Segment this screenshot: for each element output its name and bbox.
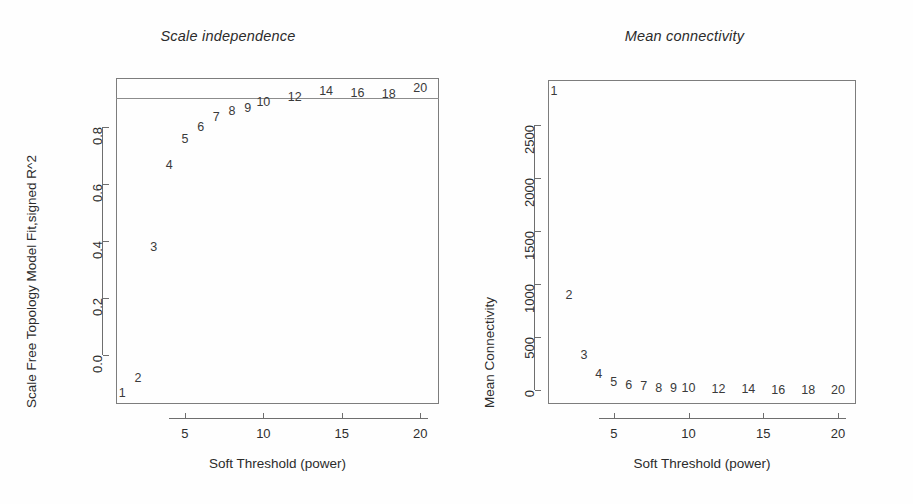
data-point-label: 7 <box>213 110 220 123</box>
data-point-label: 10 <box>256 96 270 109</box>
x-tick-mark <box>614 413 615 419</box>
y-tick-label: 1000 <box>522 284 537 313</box>
data-point-label: 4 <box>595 368 602 381</box>
x-tick-label: 5 <box>610 426 617 441</box>
data-point-label: 1 <box>550 84 557 97</box>
x-axis-line <box>169 418 428 419</box>
x-tick-label: 20 <box>413 426 427 441</box>
data-point-label: 12 <box>711 383 725 396</box>
x-tick-label: 15 <box>756 426 770 441</box>
x-tick-mark <box>763 413 764 419</box>
x-axis-title-left: Soft Threshold (power) <box>209 456 346 471</box>
data-point-label: 5 <box>182 133 189 146</box>
data-point-label: 4 <box>166 159 173 172</box>
data-point-label: 12 <box>288 90 302 103</box>
y-tick-label: 0.6 <box>90 184 105 202</box>
y-tick-label: 1500 <box>522 231 537 260</box>
y-tick-label: 0 <box>522 390 537 397</box>
data-point-label: 3 <box>150 240 157 253</box>
x-tick-label: 15 <box>335 426 349 441</box>
data-point-label: 18 <box>801 384 815 397</box>
y-tick-label: 0.8 <box>90 127 105 145</box>
y-tick-label: 0.0 <box>90 355 105 373</box>
data-point-label: 3 <box>580 349 587 362</box>
data-point-label: 6 <box>197 120 204 133</box>
x-axis-title-right: Soft Threshold (power) <box>633 456 770 471</box>
data-point-label: 14 <box>319 85 333 98</box>
panel-scale-independence: Scale independence Soft Threshold (power… <box>0 0 456 504</box>
x-tick-mark <box>420 413 421 419</box>
y-tick-label: 0.4 <box>90 241 105 259</box>
x-tick-label: 20 <box>831 426 845 441</box>
y-axis-title-right: Mean Connectivity <box>482 297 497 408</box>
data-point-label: 2 <box>134 372 141 385</box>
y-axis-title-left: Scale Free Topology Model Fit,signed R^2 <box>24 155 39 408</box>
data-point-label: 1 <box>119 386 126 399</box>
plot-area-mean-connectivity <box>548 80 856 404</box>
data-point-label: 16 <box>351 87 365 100</box>
x-tick-label: 10 <box>256 426 270 441</box>
data-point-label: 10 <box>682 382 696 395</box>
x-tick-mark <box>185 413 186 419</box>
y-tick-label: 2500 <box>522 125 537 154</box>
data-point-label: 16 <box>771 383 785 396</box>
data-point-label: 5 <box>610 375 617 388</box>
plot-area-scale-independence <box>116 78 439 404</box>
data-point-label: 14 <box>741 383 755 396</box>
x-tick-label: 5 <box>181 426 188 441</box>
data-point-label: 6 <box>625 379 632 392</box>
data-point-label: 8 <box>229 105 236 118</box>
data-point-label: 7 <box>640 380 647 393</box>
data-point-label: 20 <box>413 82 427 95</box>
x-axis-line <box>599 418 846 419</box>
y-tick-label: 500 <box>522 337 537 359</box>
x-tick-mark <box>689 413 690 419</box>
y-tick-label: 2000 <box>522 178 537 207</box>
data-point-label: 18 <box>382 87 396 100</box>
x-tick-mark <box>263 413 264 419</box>
x-tick-mark <box>838 413 839 419</box>
figure-root: Scale independence Soft Threshold (power… <box>0 0 913 504</box>
data-point-label: 2 <box>565 288 572 301</box>
panel-title-scale-independence: Scale independence <box>0 28 456 44</box>
panel-title-mean-connectivity: Mean connectivity <box>456 28 913 44</box>
x-tick-mark <box>342 413 343 419</box>
data-point-label: 9 <box>670 382 677 395</box>
data-point-label: 9 <box>244 102 251 115</box>
data-point-label: 20 <box>831 384 845 397</box>
panel-mean-connectivity: Mean connectivity Soft Threshold (power)… <box>456 0 913 504</box>
data-point-label: 8 <box>655 381 662 394</box>
x-tick-label: 10 <box>681 426 695 441</box>
y-tick-label: 0.2 <box>90 298 105 316</box>
